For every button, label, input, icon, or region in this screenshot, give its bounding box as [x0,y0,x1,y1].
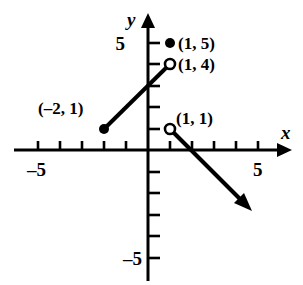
y-axis: 5 –5 y [116,9,161,281]
x-axis-arrowhead [277,143,292,157]
open-endpoint-1-1 [165,124,175,134]
label-point-1-5: (1, 5) [178,34,215,53]
segment-line [104,64,170,129]
y-tick-label-pos5: 5 [116,33,126,54]
label-point-neg2-1: (–2, 1) [38,99,83,118]
increasing-segment [99,59,175,134]
closed-point-1-5 [165,38,175,48]
x-tick-label-neg5: –5 [26,159,46,180]
graph-figure: –5 5 x 5 –5 y [0,0,303,285]
x-tick-label-pos5: 5 [253,159,263,180]
y-axis-arrowhead [141,13,155,28]
x-axis-label: x [280,122,291,143]
label-point-1-4: (1, 4) [178,55,215,74]
coordinate-plane: –5 5 x 5 –5 y [0,0,303,285]
open-endpoint-1-4 [165,59,175,69]
ray-line [170,129,243,202]
closed-endpoint-neg2-1 [99,124,109,134]
label-point-1-1: (1, 1) [176,109,213,128]
y-tick-label-neg5: –5 [122,248,142,269]
isolated-point-1-5 [165,38,175,48]
y-axis-label: y [125,9,136,30]
decreasing-ray [165,124,252,211]
